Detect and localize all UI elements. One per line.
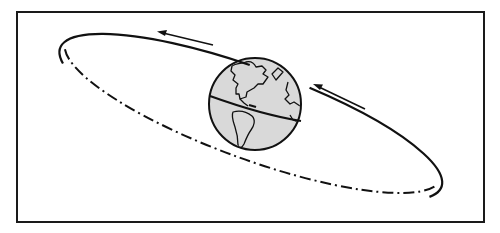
direction-arrow-upper-left-icon — [157, 30, 213, 45]
earth-globe-icon — [209, 58, 301, 150]
direction-arrow-upper-right-icon — [313, 84, 365, 109]
diagram-figure: Orbit around Earth Line drawing of a til… — [0, 0, 500, 233]
orbit-diagram-svg — [0, 0, 500, 233]
